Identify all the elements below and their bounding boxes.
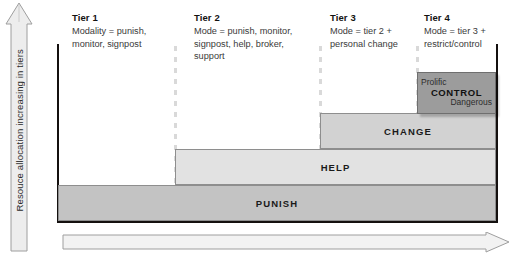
axis-line-right: [496, 44, 498, 223]
tier-3-description: Mode = tier 2 + personal change: [330, 25, 422, 50]
band-punish[interactable]: PUNISH: [58, 185, 496, 221]
tier-4-description: Mode = tier 3 + restrict/control: [424, 25, 510, 50]
band-help-label: HELP: [321, 162, 351, 173]
band-control[interactable]: Prolific CONTROL Dangerous: [417, 72, 496, 114]
up-arrow-icon: [6, 3, 32, 251]
control-dangerous-label: Dangerous: [421, 98, 492, 108]
tier-1-title: Tier 1: [72, 12, 176, 23]
diagram-canvas: Resouce allocation increasing in tiers P…: [0, 0, 510, 254]
tier-2-title: Tier 2: [194, 12, 316, 23]
band-punish-label: PUNISH: [256, 198, 299, 209]
tier-1-description: Modality = punish, monitor, signpost: [72, 25, 176, 50]
tier-progression-arrow: [62, 232, 510, 254]
right-arrow-icon: [63, 232, 509, 252]
tier-heading-4: Tier 4 Mode = tier 3 + restrict/control: [424, 12, 510, 50]
band-change[interactable]: CHANGE: [320, 113, 496, 149]
tier-2-description: Mode = punish, monitor, signpost, help, …: [194, 25, 316, 63]
tier-heading-1: Tier 1 Modality = punish, monitor, signp…: [72, 12, 176, 50]
band-help[interactable]: HELP: [175, 149, 496, 185]
tier-heading-2: Tier 2 Mode = punish, monitor, signpost,…: [194, 12, 316, 63]
axis-line-bottom: [57, 221, 498, 223]
tier-heading-3: Tier 3 Mode = tier 2 + personal change: [330, 12, 422, 50]
resource-axis-arrow: [5, 2, 33, 252]
band-change-label: CHANGE: [384, 126, 432, 137]
tier-4-title: Tier 4: [424, 12, 510, 23]
tier-3-title: Tier 3: [330, 12, 422, 23]
